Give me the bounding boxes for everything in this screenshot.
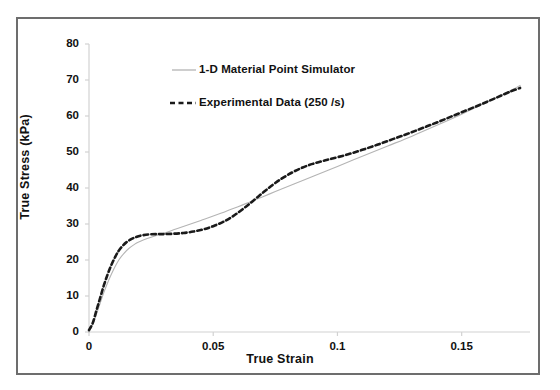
y-tick-label: 10 bbox=[45, 289, 79, 301]
legend-label-simulator: 1-D Material Point Simulator bbox=[199, 63, 355, 75]
x-tick-label: 0 bbox=[54, 340, 124, 352]
legend-markers bbox=[170, 70, 196, 103]
y-tick-label: 0 bbox=[45, 325, 79, 337]
y-tick-label: 50 bbox=[45, 145, 79, 157]
y-axis-title: True Stress (kPa) bbox=[18, 52, 32, 282]
series-line-experimental bbox=[89, 88, 520, 330]
x-tick-label: 0.1 bbox=[302, 340, 372, 352]
chart-figure: True Stress (kPa) True Strain 0102030405… bbox=[0, 0, 560, 390]
y-tick-label: 80 bbox=[45, 37, 79, 49]
series-line-simulator bbox=[89, 85, 520, 332]
x-axis-title: True Strain bbox=[0, 352, 560, 366]
y-tick-label: 20 bbox=[45, 253, 79, 265]
legend-label-experimental: Experimental Data (250 /s) bbox=[199, 96, 345, 108]
data-series-layer bbox=[89, 85, 520, 332]
x-tick-label: 0.15 bbox=[427, 340, 497, 352]
x-tick-label: 0.05 bbox=[178, 340, 248, 352]
axis-lines bbox=[89, 44, 530, 332]
y-tick-label: 40 bbox=[45, 181, 79, 193]
y-tick-label: 60 bbox=[45, 109, 79, 121]
y-tick-label: 70 bbox=[45, 73, 79, 85]
y-tick-label: 30 bbox=[45, 217, 79, 229]
plot-canvas bbox=[0, 0, 560, 390]
